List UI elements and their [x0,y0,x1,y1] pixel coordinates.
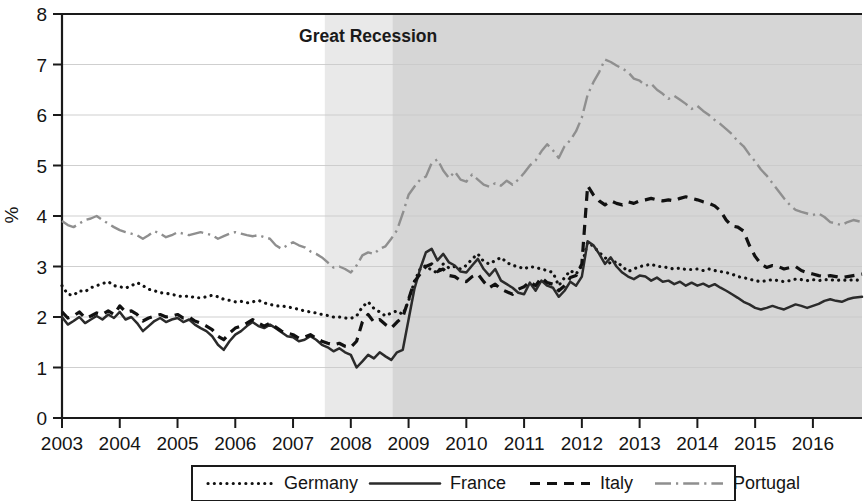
y-tick-label: 1 [36,358,47,379]
legend-item-germany[interactable]: Germany [208,473,358,493]
x-tick-label: 2003 [41,433,83,454]
x-tick-label: 2006 [214,433,256,454]
x-tick-label: 2014 [676,433,719,454]
y-tick-label: 0 [36,408,47,429]
legend-item-italy[interactable]: Italy [530,473,633,493]
line-chart: Great Recession % GermanyFranceItalyPort… [0,0,864,501]
x-tick-label: 2005 [156,433,198,454]
legend-item-portugal[interactable]: Portugal [655,473,800,493]
chart-container: Great Recession % GermanyFranceItalyPort… [0,0,864,501]
x-tick-label: 2016 [792,433,834,454]
x-tick-label: 2010 [445,433,487,454]
x-tick-label: 2008 [330,433,372,454]
y-axis-ticks [53,14,62,418]
legend-label-france: France [450,473,506,493]
x-tick-label: 2012 [561,433,603,454]
y-tick-label: 2 [36,307,47,328]
y-tick-label: 5 [36,156,47,177]
x-tick-label: 2004 [99,433,142,454]
y-axis-title: % [1,206,22,223]
legend-item-france[interactable]: France [370,473,506,493]
legend-label-portugal: Portugal [733,473,800,493]
x-tick-label: 2015 [734,433,776,454]
legend-label-germany: Germany [284,473,358,493]
legend: GermanyFranceItalyPortugal [192,466,800,501]
y-tick-label: 6 [36,105,47,126]
x-tick-label: 2009 [387,433,429,454]
y-tick-label: 8 [36,4,47,25]
y-tick-label: 4 [36,206,47,227]
legend-label-italy: Italy [600,473,633,493]
x-axis-ticks [62,418,813,428]
y-tick-label: 7 [36,55,47,76]
x-tick-label: 2013 [618,433,660,454]
y-tick-label: 3 [36,257,47,278]
x-tick-label: 2007 [272,433,314,454]
great-recession-annotation: Great Recession [299,26,437,46]
x-tick-label: 2011 [504,433,545,454]
